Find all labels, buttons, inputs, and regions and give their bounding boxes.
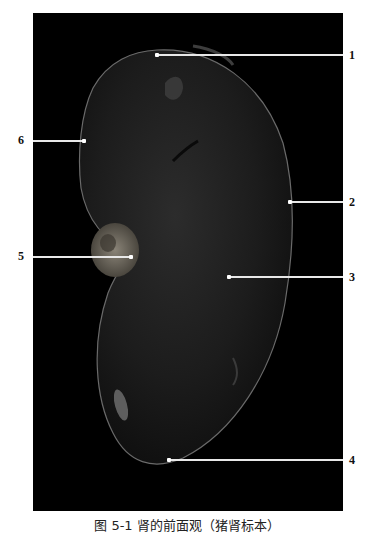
- leader-line-5: [33, 256, 131, 258]
- marker-dot-2: [288, 200, 292, 204]
- label-4: 4: [349, 454, 355, 466]
- marker-dot-1: [155, 53, 159, 57]
- specimen-photo: [33, 13, 343, 511]
- leader-line-2: [290, 201, 343, 203]
- leader-line-3: [229, 276, 343, 278]
- marker-dot-4: [167, 458, 171, 462]
- leader-line-1: [157, 54, 343, 56]
- marker-dot-3: [227, 275, 231, 279]
- leader-line-6: [33, 140, 84, 142]
- leader-line-4: [169, 459, 343, 461]
- marker-dot-6: [82, 139, 86, 143]
- label-6: 6: [18, 134, 24, 146]
- hilum-tissue: [91, 223, 139, 277]
- kidney-illustration: [33, 13, 343, 511]
- label-3: 3: [349, 271, 355, 283]
- label-2: 2: [349, 196, 355, 208]
- label-1: 1: [349, 49, 355, 61]
- label-5: 5: [18, 250, 24, 262]
- marker-dot-5: [129, 255, 133, 259]
- figure-caption: 图 5-1 肾的前面观（猪肾标本）: [0, 519, 374, 533]
